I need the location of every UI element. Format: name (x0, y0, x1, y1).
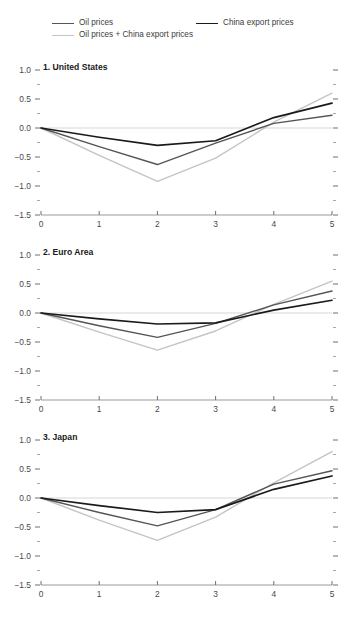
y-axis-tick-label: −1.0 (14, 181, 31, 191)
x-axis-tick-label: 4 (271, 589, 276, 599)
series-line (41, 103, 332, 145)
panel-plot-area: 1.00.50.0−0.5−1.0−1.5012345 (0, 430, 352, 590)
legend-item[interactable]: Oil prices (52, 18, 113, 28)
x-axis-tick-label: 0 (39, 589, 44, 599)
y-axis-tick-label: 0.5 (19, 94, 31, 104)
y-axis-tick-label: 1.0 (19, 435, 31, 445)
x-axis-tick-label: 0 (39, 219, 44, 229)
x-axis-tick-label: 4 (271, 219, 276, 229)
x-axis-tick-label: 2 (155, 589, 160, 599)
chart-panel-japan: 3. Japan1.00.50.0−0.5−1.0−1.5012345 (0, 430, 352, 590)
legend-item-label: Oil prices + China export prices (79, 30, 193, 40)
x-axis-tick-label: 2 (155, 404, 160, 414)
x-axis-tick-label: 1 (97, 404, 102, 414)
legend-item[interactable]: China export prices (196, 18, 294, 28)
panel-plot-area: 1.00.50.0−0.5−1.0−1.5012345 (0, 60, 352, 220)
legend-line-swatch (196, 23, 218, 24)
y-axis-tick-label: 0.0 (19, 493, 31, 503)
chart-panel-united-states: 1. United States1.00.50.0−0.5−1.0−1.5012… (0, 60, 352, 220)
impulse-response-figure: Oil pricesChina export pricesOil prices … (0, 0, 352, 618)
x-axis-tick-label: 1 (97, 219, 102, 229)
y-axis-tick-label: −1.5 (14, 395, 31, 405)
y-axis-tick-label: −0.5 (14, 152, 31, 162)
series-line (41, 300, 332, 324)
x-axis-tick-label: 3 (213, 404, 218, 414)
y-axis-tick-label: −1.5 (14, 580, 31, 590)
chart-panel-euro-area: 2. Euro Area1.00.50.0−0.5−1.0−1.5012345 (0, 245, 352, 405)
series-line (41, 452, 332, 541)
y-axis-tick-label: −0.5 (14, 337, 31, 347)
panel-plot-area: 1.00.50.0−0.5−1.0−1.5012345 (0, 245, 352, 405)
x-axis-tick-label: 5 (330, 404, 335, 414)
legend-line-swatch (52, 23, 74, 24)
y-axis-tick-label: 1.0 (19, 250, 31, 260)
x-axis-tick-label: 2 (155, 219, 160, 229)
legend-item[interactable]: Oil prices + China export prices (52, 30, 193, 40)
legend-item-label: China export prices (223, 18, 294, 28)
series-line (41, 93, 332, 181)
y-axis-tick-label: 0.0 (19, 123, 31, 133)
x-axis-tick-label: 5 (330, 589, 335, 599)
x-axis-tick-label: 1 (97, 589, 102, 599)
legend-line-swatch (52, 35, 74, 36)
legend-item-label: Oil prices (79, 18, 113, 28)
series-line (41, 115, 332, 164)
y-axis-tick-label: −1.0 (14, 551, 31, 561)
x-axis-tick-label: 0 (39, 404, 44, 414)
x-axis-tick-label: 5 (330, 219, 335, 229)
y-axis-tick-label: −1.5 (14, 210, 31, 220)
y-axis-tick-label: 1.0 (19, 65, 31, 75)
y-axis-tick-label: 0.5 (19, 464, 31, 474)
x-axis-tick-label: 4 (271, 404, 276, 414)
x-axis-tick-label: 3 (213, 219, 218, 229)
series-line (41, 281, 332, 350)
y-axis-tick-label: 0.0 (19, 308, 31, 318)
y-axis-tick-label: −1.0 (14, 366, 31, 376)
y-axis-tick-label: 0.5 (19, 279, 31, 289)
y-axis-tick-label: −0.5 (14, 522, 31, 532)
chart-legend: Oil pricesChina export pricesOil prices … (0, 18, 352, 52)
x-axis-tick-label: 3 (213, 589, 218, 599)
